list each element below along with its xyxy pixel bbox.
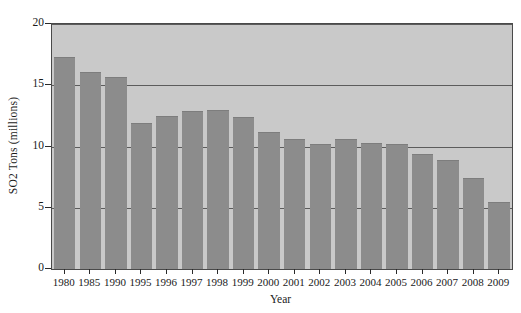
plot-area bbox=[51, 23, 513, 270]
x-tick-label-1999: 1999 bbox=[232, 276, 254, 289]
bar-1998 bbox=[207, 110, 228, 269]
x-tick-mark-1999 bbox=[243, 269, 244, 274]
y-tick-mark-20 bbox=[45, 23, 51, 24]
x-tick-mark-2001 bbox=[294, 269, 295, 274]
bar-1997 bbox=[182, 111, 203, 269]
bar-1995 bbox=[131, 123, 152, 269]
x-tick-label-2006: 2006 bbox=[411, 276, 433, 289]
bar-1996 bbox=[156, 116, 177, 269]
bar-2000 bbox=[258, 132, 279, 269]
bar-2006 bbox=[412, 154, 433, 269]
x-tick-mark-2000 bbox=[268, 269, 269, 274]
bar-2001 bbox=[284, 139, 305, 269]
x-tick-label-1995: 1995 bbox=[129, 276, 151, 289]
x-tick-mark-2004 bbox=[370, 269, 371, 274]
x-tick-mark-2003 bbox=[345, 269, 346, 274]
y-tick-label-20: 20 bbox=[18, 17, 44, 29]
y-tick-label-5: 5 bbox=[18, 201, 44, 213]
x-tick-mark-1997 bbox=[192, 269, 193, 274]
y-tick-mark-10 bbox=[45, 146, 51, 147]
x-tick-label-1997: 1997 bbox=[181, 276, 203, 289]
x-axis-title-text: Year bbox=[230, 293, 291, 305]
y-tick-label-0: 0 bbox=[18, 262, 44, 274]
bar-2002 bbox=[310, 144, 331, 269]
x-tick-mark-2009 bbox=[498, 269, 499, 274]
x-tick-label-2005: 2005 bbox=[385, 276, 407, 289]
x-tick-mark-1985 bbox=[89, 269, 90, 274]
x-axis-title: Year bbox=[0, 292, 521, 306]
x-tick-label-1990: 1990 bbox=[104, 276, 126, 289]
bar-2003 bbox=[335, 139, 356, 269]
y-tick-label-10: 10 bbox=[18, 140, 44, 152]
x-tick-mark-1998 bbox=[217, 269, 218, 274]
x-tick-mark-1996 bbox=[166, 269, 167, 274]
x-tick-label-1985: 1985 bbox=[78, 276, 100, 289]
x-tick-label-2003: 2003 bbox=[334, 276, 356, 289]
y-axis-tick-labels: 05101520 bbox=[14, 0, 44, 313]
x-tick-label-2004: 2004 bbox=[359, 276, 381, 289]
x-tick-label-2008: 2008 bbox=[462, 276, 484, 289]
x-tick-mark-2006 bbox=[422, 269, 423, 274]
bar-1980 bbox=[54, 57, 75, 269]
bar-2007 bbox=[437, 160, 458, 269]
so2-emissions-bar-chart: SO2 Tons (millions) 05101520 19801985199… bbox=[0, 0, 521, 313]
y-tick-mark-5 bbox=[45, 207, 51, 208]
x-tick-label-2007: 2007 bbox=[436, 276, 458, 289]
x-tick-label-2009: 2009 bbox=[487, 276, 509, 289]
bar-1985 bbox=[80, 72, 101, 269]
x-tick-label-2000: 2000 bbox=[257, 276, 279, 289]
y-tick-mark-15 bbox=[45, 84, 51, 85]
x-tick-label-1998: 1998 bbox=[206, 276, 228, 289]
bar-1990 bbox=[105, 77, 126, 269]
x-tick-mark-2007 bbox=[447, 269, 448, 274]
bar-2005 bbox=[386, 144, 407, 269]
x-tick-mark-1980 bbox=[64, 269, 65, 274]
x-tick-mark-1995 bbox=[140, 269, 141, 274]
x-tick-mark-2002 bbox=[319, 269, 320, 274]
y-tick-mark-0 bbox=[45, 268, 51, 269]
x-tick-mark-2005 bbox=[396, 269, 397, 274]
x-tick-label-1980: 1980 bbox=[53, 276, 75, 289]
x-tick-mark-2008 bbox=[473, 269, 474, 274]
bar-1999 bbox=[233, 117, 254, 269]
x-tick-mark-1990 bbox=[115, 269, 116, 274]
bar-2009 bbox=[488, 202, 509, 269]
bars-container bbox=[52, 24, 512, 269]
bar-2008 bbox=[463, 178, 484, 269]
y-tick-label-15: 15 bbox=[18, 78, 44, 90]
x-tick-label-1996: 1996 bbox=[155, 276, 177, 289]
x-tick-label-2001: 2001 bbox=[283, 276, 305, 289]
x-tick-label-2002: 2002 bbox=[308, 276, 330, 289]
plot-inner bbox=[52, 24, 512, 269]
bar-2004 bbox=[361, 143, 382, 269]
